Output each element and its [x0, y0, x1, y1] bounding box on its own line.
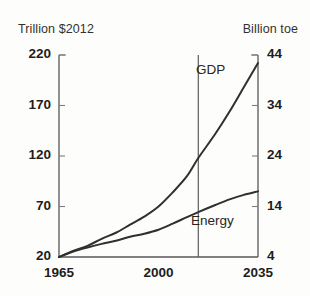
y-tick-120: 120: [9, 147, 51, 162]
y-tick-20: 20: [9, 248, 51, 263]
y-tick-170: 170: [9, 97, 51, 112]
y2-tick-24: 24: [267, 147, 309, 162]
y-tick-70: 70: [9, 198, 51, 213]
y-tick-220: 220: [9, 46, 51, 61]
y2-tick-4: 4: [267, 248, 309, 263]
chart-figure: Trillion $2012 Billion toe 2070120170220…: [0, 0, 310, 296]
series-label-energy: Energy: [191, 213, 234, 228]
y2-tick-34: 34: [267, 97, 309, 112]
x-tick-1965: 1965: [29, 265, 89, 280]
y2-tick-44: 44: [267, 46, 309, 61]
series-label-gdp: GDP: [196, 62, 225, 77]
y2-tick-14: 14: [267, 198, 309, 213]
x-tick-2000: 2000: [129, 265, 189, 280]
x-tick-2035: 2035: [228, 265, 288, 280]
